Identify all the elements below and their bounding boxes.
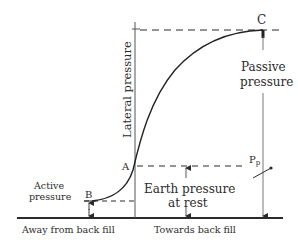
passive-pressure-label-1: Passive xyxy=(241,60,286,74)
pp-leader-dot xyxy=(269,166,272,169)
pressure-curve xyxy=(92,30,263,201)
rest-pressure-label-2: at rest xyxy=(168,196,208,210)
active-pressure-label-1: Active xyxy=(33,180,64,191)
rest-pressure-label-1: Earth pressure xyxy=(144,182,235,196)
passive-pressure-label-2: pressure xyxy=(240,75,293,89)
lateral-pressure-axis-label: Lateral pressure xyxy=(120,41,134,138)
earth-pressure-diagram: C A B Passive pressure Earth pressure at… xyxy=(0,0,298,243)
point-c-label: C xyxy=(257,13,266,27)
pp-label-sub: p xyxy=(256,159,261,167)
pp-leader-line xyxy=(253,168,271,178)
active-pressure-label-2: pressure xyxy=(29,191,72,202)
point-a-label: A xyxy=(121,161,130,172)
pp-label: Pp xyxy=(249,154,261,167)
towards-backfill-label: Towards back fill xyxy=(154,224,236,235)
point-b-label: B xyxy=(85,189,92,200)
away-from-backfill-label: Away from back fill xyxy=(21,224,115,235)
